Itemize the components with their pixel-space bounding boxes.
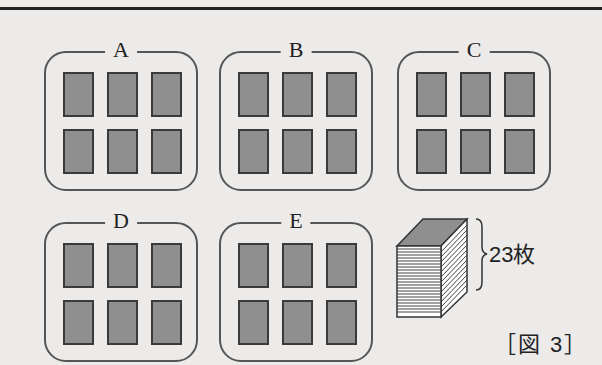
card — [63, 300, 94, 345]
card — [416, 129, 447, 174]
card-group-b: B — [219, 51, 373, 191]
group-label: E — [281, 208, 310, 234]
card-group-e: E — [219, 222, 373, 362]
group-label: D — [105, 208, 137, 234]
card — [416, 72, 447, 117]
card — [326, 300, 357, 345]
card-stack-icon — [390, 212, 490, 324]
card — [282, 129, 313, 174]
group-label: B — [281, 37, 312, 63]
card — [326, 129, 357, 174]
top-rule — [0, 7, 602, 10]
card — [282, 300, 313, 345]
figure-caption: ［図 3］ — [494, 326, 588, 358]
card — [460, 129, 491, 174]
card — [107, 300, 138, 345]
card-group-d: D — [44, 222, 198, 362]
card — [63, 129, 94, 174]
card — [63, 243, 94, 288]
card — [151, 243, 182, 288]
card — [326, 243, 357, 288]
card — [238, 129, 269, 174]
card — [282, 72, 313, 117]
card — [151, 129, 182, 174]
card-group-c: C — [397, 51, 551, 191]
card — [107, 129, 138, 174]
card — [107, 243, 138, 288]
card — [151, 300, 182, 345]
card — [63, 72, 94, 117]
card — [504, 129, 535, 174]
group-label: A — [105, 37, 137, 63]
card-group-a: A — [44, 51, 198, 191]
stack-count-label: 23枚 — [489, 236, 535, 268]
card — [282, 243, 313, 288]
card — [238, 300, 269, 345]
card — [504, 72, 535, 117]
card — [460, 72, 491, 117]
card — [151, 72, 182, 117]
card — [326, 72, 357, 117]
card — [238, 243, 269, 288]
group-label: C — [459, 37, 490, 63]
card — [238, 72, 269, 117]
card — [107, 72, 138, 117]
